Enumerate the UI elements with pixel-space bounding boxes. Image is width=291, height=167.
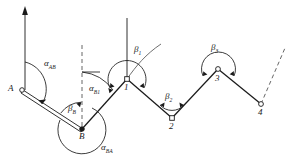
node-label-2: 2 bbox=[169, 122, 174, 131]
angle-label-beta-1: β1 bbox=[134, 45, 141, 56]
link-2-3 bbox=[172, 69, 218, 118]
node-label-3: 3 bbox=[215, 74, 220, 83]
joint-3 bbox=[216, 67, 221, 72]
joint-2 bbox=[170, 116, 175, 121]
joint-1 bbox=[125, 77, 130, 82]
diagram-canvas: A B 1 2 3 4 αAB αB1 αBA βB β1 β2 β3 bbox=[0, 0, 291, 167]
reference-dashed-at-node4 bbox=[261, 48, 285, 104]
joint-A bbox=[20, 88, 25, 93]
node-label-4: 4 bbox=[258, 108, 263, 117]
point-label-B: B bbox=[79, 132, 85, 141]
point-label-A: A bbox=[8, 84, 14, 93]
angle-label-alpha-BA: αBA bbox=[101, 143, 113, 154]
angle-label-alpha-AB: αAB bbox=[44, 59, 56, 70]
angle-label-alpha-B1: αB1 bbox=[89, 84, 100, 95]
angle-label-beta-B: βB bbox=[68, 104, 76, 115]
link-3-4 bbox=[218, 69, 261, 104]
node-label-1: 1 bbox=[124, 83, 129, 92]
reference-axis-at-A bbox=[22, 6, 28, 90]
angle-label-beta-3: β3 bbox=[211, 43, 218, 54]
angle-label-beta-2: β2 bbox=[165, 92, 172, 103]
linkage-figure bbox=[0, 0, 291, 167]
joint-4 bbox=[259, 102, 264, 107]
